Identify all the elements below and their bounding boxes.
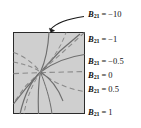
label-subscript: 21 — [94, 38, 100, 44]
label-equals: = — [101, 56, 106, 66]
curve-branch-lower-center — [41, 72, 53, 114]
label-b21-plus-0-5: B21 = 0.5 — [88, 84, 119, 94]
curve-b21-plus-0-5 — [14, 53, 85, 92]
leader-arrow-head — [49, 28, 54, 32]
label-value: −0.5 — [108, 56, 123, 66]
label-value: 0.5 — [108, 84, 119, 94]
figure-container: B21 = −10 B21 = −1 B21 = −0.5 B21 = 0 B2… — [0, 0, 141, 128]
curve-b21-zero — [14, 72, 85, 74]
label-subscript: 21 — [94, 60, 100, 66]
label-subscript: 21 — [94, 13, 100, 19]
label-value: −10 — [108, 9, 121, 19]
label-equals: = — [101, 107, 106, 117]
label-equals: = — [101, 70, 106, 80]
curve-branch-lower-right — [41, 72, 64, 101]
label-subscript: 21 — [94, 88, 100, 94]
label-value: 0 — [108, 70, 112, 80]
label-equals: = — [101, 84, 106, 94]
leader-arrow-line — [51, 17, 85, 30]
label-b21-minus-10: B21 = −10 — [88, 9, 122, 19]
label-b21-plus-1: B21 = 1 — [88, 107, 113, 117]
label-equals: = — [101, 9, 106, 19]
label-value: 1 — [108, 107, 112, 117]
label-subscript: 21 — [94, 111, 100, 117]
label-b21-minus-0-5: B21 = −0.5 — [88, 56, 124, 66]
label-b21-minus-1: B21 = −1 — [88, 34, 117, 44]
label-equals: = — [101, 34, 106, 44]
label-value: −1 — [108, 34, 117, 44]
curve-b21-plus-1 — [14, 34, 81, 104]
curve-b21-minus-1 — [14, 33, 85, 104]
label-subscript: 21 — [94, 74, 100, 80]
label-b21-zero: B21 = 0 — [88, 70, 113, 80]
